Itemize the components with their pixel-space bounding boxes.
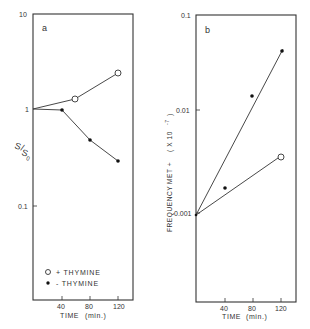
panel-b-xtick-120: 120 — [275, 305, 287, 312]
panel-a-point-minus-40 — [60, 108, 64, 112]
panel-b-xtick-40: 40 — [220, 305, 228, 312]
legend-open-circle-icon — [46, 270, 51, 275]
panel-b-ylabel: FREQUENCY MET + ( X 10 -7 ) — [164, 113, 174, 232]
panel-a-series-plus-thymine-line — [33, 73, 118, 109]
panel-a-series-minus-thymine-line — [33, 109, 118, 161]
legend-minus-thymine-label: - THYMINE — [56, 280, 99, 287]
panel-a-xtick-80: 80 — [85, 303, 93, 310]
panel-a-ytick-10: 10 — [19, 11, 27, 18]
panel-b-point-plus-120 — [278, 154, 284, 160]
panel-a-ytick-1: 1 — [25, 106, 29, 113]
panel-b-fit-plus-thymine — [196, 158, 278, 215]
panel-b-label: b — [205, 25, 210, 35]
panel-a-frame — [33, 14, 133, 300]
panel-a-point-minus-80 — [88, 138, 92, 142]
panel-a-xtick-40: 40 — [57, 303, 65, 310]
legend-plus-thymine-label: + THYMINE — [56, 269, 101, 276]
panel-a-ylabel: S/ S 0 — [11, 140, 34, 162]
panel-b-xlabel-time: TIME — [222, 313, 241, 320]
svg-text:): ) — [166, 113, 174, 116]
panel-a-xtick-120: 120 — [113, 303, 125, 310]
panel-a-point-plus-60 — [72, 96, 78, 102]
panel-a: a 10 1 0.1 S/ S 0 40 80 120 TIME (min.) — [11, 11, 133, 320]
panel-a-legend: + THYMINE - THYMINE — [46, 269, 101, 287]
panel-b-ytick-0.1: 0.1 — [181, 12, 191, 19]
panel-b-point-minus-40 — [223, 186, 227, 190]
panel-b-origin-point — [195, 214, 198, 217]
legend-filled-circle-icon — [46, 281, 49, 284]
panel-b: b 0.1 0.01 0.001 FREQUENCY MET + ( X 10 … — [164, 12, 296, 321]
panel-a-ytick-0.1: 0.1 — [18, 203, 28, 210]
panel-a-xlabel-unit: (min.) — [85, 312, 107, 320]
panel-b-fit-minus-thymine — [196, 49, 283, 215]
svg-text:-7: -7 — [164, 119, 170, 125]
panel-a-xlabel-time: TIME — [60, 312, 79, 319]
panel-b-ytick-0.001: 0.001 — [174, 210, 192, 217]
svg-text:FREQUENCY: FREQUENCY — [166, 186, 174, 232]
panel-a-point-plus-120 — [115, 70, 121, 76]
panel-a-point-minus-120 — [116, 159, 120, 163]
svg-text:0: 0 — [25, 155, 31, 162]
panel-b-point-minus-80 — [250, 94, 254, 98]
panel-b-xlabel-unit: (min.) — [246, 313, 268, 321]
panel-a-label: a — [42, 23, 47, 33]
figure: a 10 1 0.1 S/ S 0 40 80 120 TIME (min.) — [0, 0, 310, 329]
panel-b-xtick-80: 80 — [248, 305, 256, 312]
svg-text:MET +: MET + — [166, 162, 173, 184]
panel-b-point-minus-120 — [280, 49, 284, 53]
panel-b-ytick-0.01: 0.01 — [176, 107, 190, 114]
svg-text:( X 10: ( X 10 — [166, 131, 174, 152]
